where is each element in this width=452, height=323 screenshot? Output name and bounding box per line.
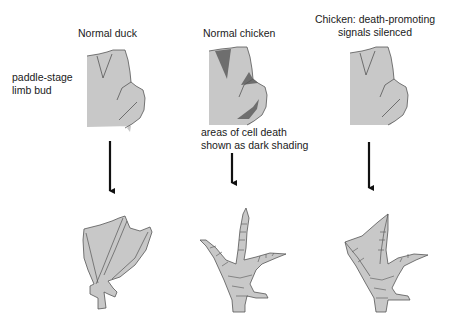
duck-limb-bud (87, 50, 145, 132)
duck-webbed-foot (83, 216, 152, 309)
chicken-limb-bud (209, 47, 267, 125)
silenced-chicken-foot (345, 214, 428, 312)
chicken-foot (200, 208, 286, 312)
silenced-limb-bud (350, 47, 408, 125)
diagram-canvas (0, 0, 452, 323)
